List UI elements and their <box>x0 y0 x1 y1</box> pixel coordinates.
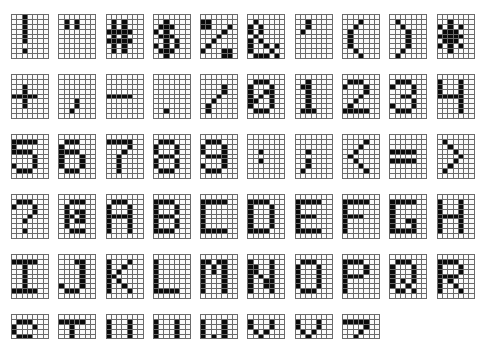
pixel-off <box>359 85 363 89</box>
pixel-off <box>212 215 216 219</box>
pixel-off <box>275 289 279 293</box>
pixel-off <box>201 315 205 319</box>
pixel-off <box>233 205 237 209</box>
pixel-on <box>112 35 116 39</box>
pixel-off <box>443 164 447 168</box>
pixel-off <box>270 294 274 298</box>
pixel-on <box>396 150 400 154</box>
pixel-on <box>159 289 163 293</box>
pixel-off <box>222 140 226 144</box>
pixel-off <box>33 80 37 84</box>
pixel-off <box>327 260 331 264</box>
pixel-off <box>370 30 374 34</box>
pixel-off <box>464 54 468 58</box>
glyph-cell-grid: # <box>106 14 144 59</box>
pixel-off <box>396 114 400 118</box>
pixel-off <box>364 294 368 298</box>
pixel-off <box>38 75 42 79</box>
pixel-on <box>306 260 310 264</box>
pixel-on <box>270 279 274 283</box>
pixel-on <box>412 270 416 274</box>
pixel-on <box>23 270 27 274</box>
pixel-on <box>17 260 21 264</box>
pixel-on <box>390 229 394 233</box>
pixel-off <box>138 215 142 219</box>
pixel-off <box>354 224 358 228</box>
pixel-off <box>91 135 95 139</box>
pixel-off <box>254 224 258 228</box>
pixel-off <box>306 169 310 173</box>
pixel-on <box>301 215 305 219</box>
pixel-off <box>28 54 32 58</box>
pixel-off <box>117 195 121 199</box>
pixel-off <box>401 44 405 48</box>
pixel-off <box>91 169 95 173</box>
pixel-off <box>375 99 379 103</box>
pixel-off <box>406 210 410 214</box>
pixel-off <box>443 20 447 24</box>
pixel-off <box>17 265 21 269</box>
pixel-off <box>233 224 237 228</box>
pixel-off <box>170 20 174 24</box>
pixel-off <box>359 265 363 269</box>
pixel-off <box>443 265 447 269</box>
pixel-off <box>228 80 232 84</box>
pixel-off <box>138 15 142 19</box>
pixel-off <box>317 35 321 39</box>
pixel-off <box>364 20 368 24</box>
pixel-off <box>322 135 326 139</box>
pixel-on <box>117 39 121 43</box>
pixel-on <box>175 224 179 228</box>
pixel-off <box>138 289 142 293</box>
pixel-off <box>217 109 221 113</box>
pixel-off <box>448 159 452 163</box>
pixel-off <box>86 275 90 279</box>
pixel-on <box>390 284 394 288</box>
pixel-off <box>370 140 374 144</box>
pixel-off <box>206 234 210 238</box>
pixel-off <box>275 275 279 279</box>
pixel-off <box>417 265 421 269</box>
pixel-off <box>412 15 416 19</box>
pixel-off <box>86 145 90 149</box>
pixel-off <box>228 335 232 339</box>
pixel-off <box>107 150 111 154</box>
pixel-off <box>38 140 42 144</box>
pixel-off <box>443 219 447 223</box>
pixel-on <box>396 260 400 264</box>
pixel-off <box>459 49 463 53</box>
pixel-off <box>412 80 416 84</box>
pixel-off <box>159 114 163 118</box>
pixel-off <box>317 169 321 173</box>
pixel-off <box>348 114 352 118</box>
pixel-off <box>280 320 284 324</box>
pixel-on <box>454 35 458 39</box>
pixel-off <box>354 39 358 43</box>
pixel-off <box>375 25 379 29</box>
pixel-on <box>459 224 463 228</box>
pixel-off <box>159 20 163 24</box>
pixel-on <box>107 224 111 228</box>
pixel-off <box>23 205 27 209</box>
pixel-off <box>259 135 263 139</box>
pixel-off <box>170 80 174 84</box>
pixel-on <box>222 164 226 168</box>
pixel-off <box>44 114 48 118</box>
pixel-off <box>206 265 210 269</box>
glyph-cell-grid: & <box>247 14 285 59</box>
pixel-off <box>354 174 358 178</box>
pixel-on <box>107 279 111 283</box>
pixel-off <box>422 54 426 58</box>
pixel-on <box>296 219 300 223</box>
pixel-off <box>312 25 316 29</box>
pixel-off <box>254 155 258 159</box>
pixel-off <box>317 49 321 53</box>
pixel-off <box>322 140 326 144</box>
pixel-off <box>12 39 16 43</box>
pixel-off <box>280 159 284 163</box>
pixel-off <box>38 335 42 339</box>
pixel-off <box>406 234 410 238</box>
pixel-off <box>306 224 310 228</box>
pixel-off <box>469 159 473 163</box>
pixel-off <box>375 335 379 339</box>
